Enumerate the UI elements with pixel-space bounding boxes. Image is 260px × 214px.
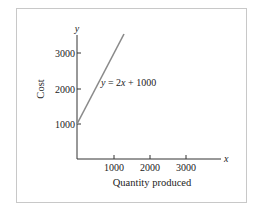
equation-annotation: y = 2x + 1000 [100, 77, 156, 88]
chart-svg: 1000 2000 3000 1000 2000 3000 y x Quanti… [0, 0, 260, 214]
x-tick-label: 1000 [104, 162, 124, 173]
y-axis-symbol: y [74, 23, 80, 34]
y-tick-label: 2000 [55, 84, 75, 95]
y-tick-label: 1000 [55, 119, 75, 130]
x-axis-title: Quantity produced [113, 177, 192, 188]
x-tick-label: 3000 [176, 162, 196, 173]
x-axis-symbol: x [223, 153, 229, 164]
x-tick-label: 2000 [140, 162, 160, 173]
y-axis-title: Cost [35, 79, 46, 98]
y-tick-label: 3000 [55, 48, 75, 59]
